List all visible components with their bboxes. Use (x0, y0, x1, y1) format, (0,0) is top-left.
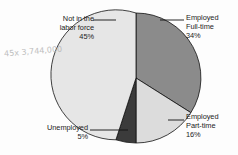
pie-label-employed-full-time: Employed Full-time 34% (186, 13, 238, 41)
pie-label-employed-part-time: Employed Part-time 16% (186, 112, 238, 140)
pie-label-not-in-labor-force: Not in the labor force 45% (24, 14, 94, 42)
pie-label-unemployed: Unemployed 5% (10, 123, 88, 141)
pie-chart-figure: Employed Full-time 34% Employed Part-tim… (0, 0, 238, 155)
